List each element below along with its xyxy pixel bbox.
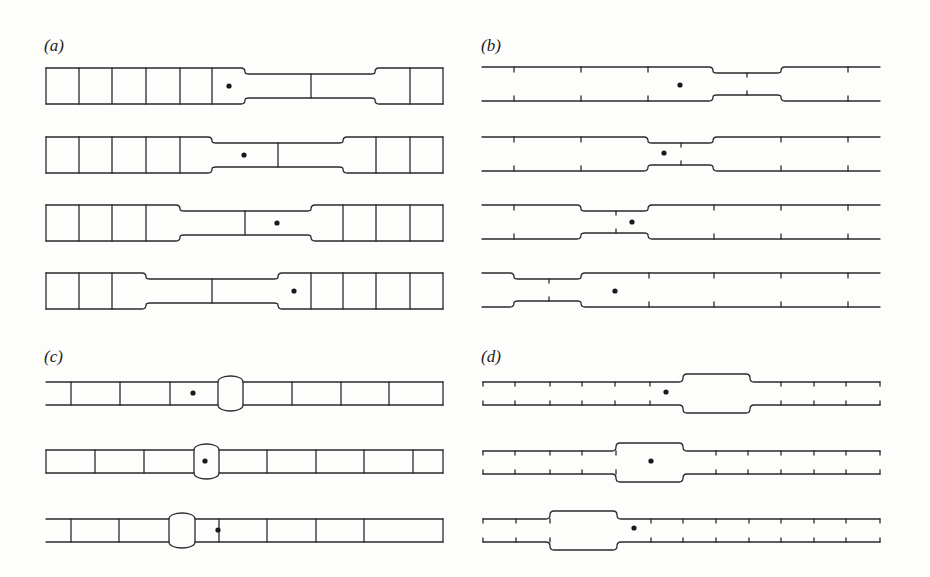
tube-bottom-edge: [482, 233, 880, 239]
bar-bottom-edge: [46, 167, 443, 173]
tube-top-edge: [483, 443, 880, 451]
tube-row: [483, 443, 880, 482]
bar-row: [46, 444, 443, 479]
tube-top-edge: [482, 205, 880, 211]
tracer-dot: [677, 82, 682, 87]
tube-bottom-edge: [483, 542, 880, 550]
tracer-dot: [190, 390, 195, 395]
tube-row: [483, 511, 880, 550]
panel-label-d: (d): [481, 347, 501, 366]
tube-top-edge: [483, 374, 880, 382]
bar-bottom-edge: [46, 303, 443, 309]
bar-row: [46, 205, 443, 241]
bar-row: [46, 273, 443, 309]
bar-bottom-edge: [46, 98, 443, 104]
panel-label-b: (b): [481, 36, 501, 55]
tube-bottom-edge: [482, 95, 880, 101]
bar-top-edge: [46, 205, 443, 211]
tube-top-edge: [482, 137, 880, 143]
tube-row: [482, 137, 880, 171]
tracer-dot: [241, 152, 246, 157]
tracer-dot: [663, 389, 668, 394]
tube-row: [483, 374, 880, 413]
tube-bottom-edge: [482, 301, 880, 307]
panel-b-tube-constriction: [482, 67, 880, 307]
tube-row: [482, 67, 880, 101]
tube-bottom-edge: [482, 165, 880, 171]
wave-propagation-diagram: (a) (b) (c) (d): [0, 0, 930, 577]
panel-label-a: (a): [44, 36, 64, 55]
bar-row: [46, 68, 443, 104]
bar-top-edge: [46, 273, 443, 279]
bulge-cell: [169, 513, 195, 548]
bulge-cell: [218, 376, 243, 411]
tracer-dot: [648, 458, 653, 463]
tracer-dot: [202, 458, 207, 463]
bar-top-edge: [46, 137, 443, 143]
panel-label-c: (c): [44, 347, 63, 366]
tracer-dot: [291, 288, 296, 293]
tube-top-edge: [483, 511, 880, 519]
panel-a-segmented-neck: [46, 68, 443, 309]
tracer-dot: [629, 219, 634, 224]
bar-row: [46, 137, 443, 173]
tube-top-edge: [482, 273, 880, 279]
tracer-dot: [612, 288, 617, 293]
bar-row: [46, 376, 443, 411]
tracer-dot: [274, 220, 279, 225]
tube-bottom-edge: [483, 405, 880, 413]
tube-top-edge: [482, 67, 880, 73]
tube-row: [482, 205, 880, 239]
panel-d-tube-bulge: [483, 374, 880, 550]
tracer-dot: [215, 527, 220, 532]
bar-bottom-edge: [46, 235, 443, 241]
tube-row: [482, 273, 880, 307]
bar-row: [46, 513, 443, 548]
tracer-dot: [631, 525, 636, 530]
tracer-dot: [226, 83, 231, 88]
bar-top-edge: [46, 68, 443, 74]
tube-bottom-edge: [483, 474, 880, 482]
panel-c-segmented-bulge: [46, 376, 443, 548]
tracer-dot: [661, 150, 666, 155]
